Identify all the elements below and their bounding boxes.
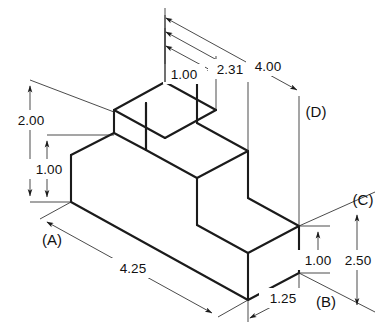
edge-notch-floor-left: [71, 133, 114, 155]
isometric-drawing: 2.00 1.00 4.25 1.00: [0, 0, 381, 332]
ext-line-2-00-top: [30, 80, 114, 112]
dimension-label-2-31: 2.31: [217, 62, 243, 77]
object-faces: [71, 76, 299, 300]
dimension-label-top-1-00: 1.00: [171, 67, 197, 82]
reference-label-c: (C): [353, 191, 374, 208]
reference-label-b: (B): [316, 293, 336, 310]
ext-line-4-25-end: [218, 300, 248, 317]
dimension-label-4-25: 4.25: [120, 261, 146, 276]
dimension-label-4-00: 4.00: [255, 59, 281, 74]
reference-label-d: (D): [306, 103, 327, 120]
ext-line-2-50-bottom: [299, 273, 375, 312]
dimension-label-1-00-left: 1.00: [36, 162, 62, 177]
dimension-label-2-50: 2.50: [345, 253, 371, 268]
dimension-label-1-25: 1.25: [270, 291, 296, 306]
dimension-label-front-1-00: 1.00: [305, 253, 331, 268]
dimension-front-height: 1.00: [297, 226, 339, 273]
technical-drawing-canvas: 2.00 1.00 4.25 1.00: [0, 0, 381, 332]
ext-line-4-25-start: [40, 202, 71, 219]
reference-label-a: (A): [42, 231, 62, 248]
dimension-label-2-00: 2.00: [18, 113, 44, 128]
